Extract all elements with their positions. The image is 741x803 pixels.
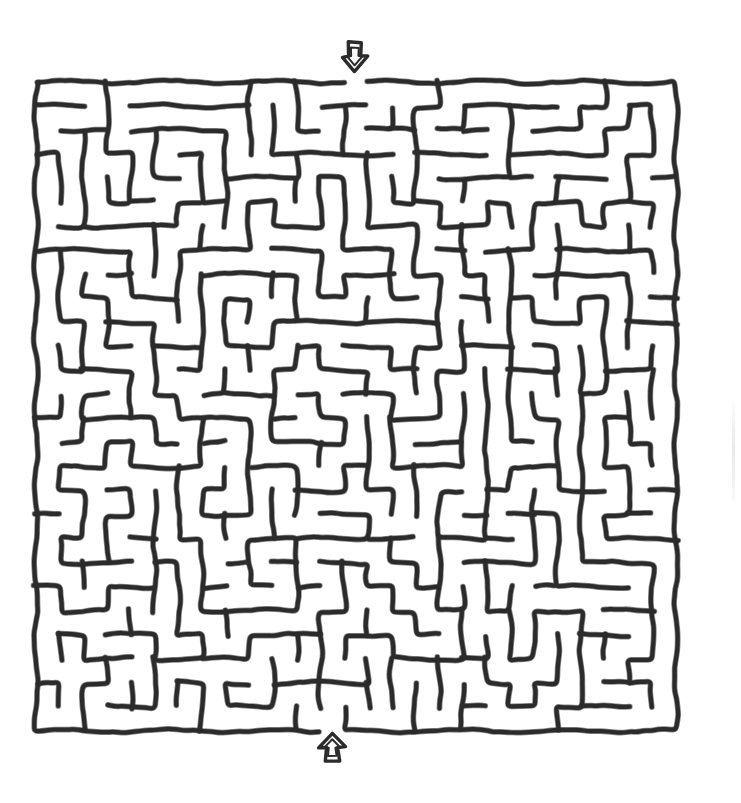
maze-page: Hand-drawn Organic Maze hand-drawn outli… (0, 0, 741, 803)
maze-drawing (0, 0, 741, 803)
faint-edge-smudge (732, 395, 735, 500)
